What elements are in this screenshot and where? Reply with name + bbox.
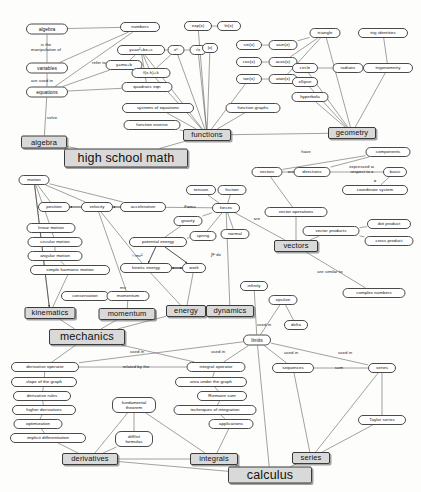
concept-node-derivative-rules[interactable]: derivative rules (13, 391, 71, 401)
concept-node-directions[interactable]: directions (294, 167, 331, 177)
edge-algebra-top-to-numbers (68, 27, 120, 28)
concept-node-derivative-operator[interactable]: derivative operator (11, 362, 79, 372)
edge-label-are-similar-to: are similar to (317, 270, 342, 275)
concept-node-optimization[interactable]: optimization (14, 419, 63, 429)
concept-node-spring[interactable]: spring (190, 231, 217, 241)
concept-node-simple-harmonic-motion[interactable]: simple harmonic motion (30, 265, 110, 275)
edge-forces-to-normal (228, 213, 234, 229)
concept-node-momentum-small[interactable]: momentum (107, 291, 150, 301)
concept-node-ellipse[interactable]: ellipse (292, 77, 318, 87)
concept-node-hyperbola[interactable]: hyperbola (292, 92, 329, 102)
concept-node-algebra-top[interactable]: algebra (26, 24, 68, 35)
concept-node-variables[interactable]: variables (26, 63, 68, 74)
concept-node-series-major[interactable]: series (292, 452, 330, 464)
concept-node-position[interactable]: position (38, 202, 70, 212)
concept-node-algebra-major[interactable]: algebra (21, 136, 67, 149)
edge-motion-to-velocity (46, 185, 86, 202)
concept-node-quad-formula[interactable]: y=ax²+bx+c (117, 45, 165, 55)
concept-node-fxhk[interactable]: f(x-h)+k (132, 68, 171, 78)
concept-node-kinematics[interactable]: kinematics (25, 307, 76, 319)
concept-node-asin-x[interactable]: asin(x) (269, 40, 298, 50)
concept-node-triangle[interactable]: triangle (310, 28, 341, 38)
concept-node-energy-major[interactable]: energy (166, 305, 206, 317)
concept-node-functions[interactable]: functions (183, 129, 231, 141)
concept-node-velocity[interactable]: velocity (81, 202, 113, 212)
concept-node-fundamental-theorem[interactable]: fundamental theorem (112, 397, 156, 413)
concept-node-work[interactable]: work (182, 263, 206, 273)
concept-node-ln-x[interactable]: ln(x) (217, 21, 241, 31)
concept-node-slope-of-the-graph[interactable]: slope of the graph (11, 377, 77, 387)
concept-node-mechanics[interactable]: mechanics (49, 329, 125, 345)
concept-node-diff-int-formulas[interactable]: diff/int formulas (115, 431, 153, 447)
concept-node-motion[interactable]: motion (19, 175, 50, 185)
concept-node-derivatives-major[interactable]: derivatives (62, 453, 118, 465)
concept-node-taylor-series[interactable]: Taylor series (358, 415, 406, 425)
concept-node-tension[interactable]: tension (186, 185, 216, 195)
concept-node-acceleration[interactable]: acceleration (120, 202, 166, 212)
concept-node-high-school-math[interactable]: high school math (64, 149, 188, 168)
concept-node-radians[interactable]: radians (333, 63, 364, 73)
concept-node-cross-product[interactable]: cross product (365, 236, 414, 246)
concept-node-vectors-major[interactable]: vectors (274, 240, 318, 252)
concept-node-applications[interactable]: applications (209, 419, 254, 429)
concept-node-series-small[interactable]: series (368, 363, 396, 373)
concept-node-exp-x[interactable]: exp(x) (184, 21, 212, 31)
edge-potential-energy-to-kinetic-energy (148, 247, 155, 263)
edge-vectors-small-to-vector-operations (271, 177, 293, 207)
concept-node-equations[interactable]: equations (26, 87, 68, 98)
concept-node-cos-x[interactable]: cos(x) (236, 57, 262, 67)
edge-label-used-in-seq: used in (284, 351, 298, 356)
concept-node-complex-numbers[interactable]: complex numbers (343, 288, 406, 298)
concept-node-vector-products[interactable]: vector products (303, 226, 360, 236)
concept-node-delta[interactable]: delta (284, 320, 308, 330)
concept-node-components[interactable]: components (366, 147, 411, 157)
concept-node-integrals-major[interactable]: integrals (190, 453, 238, 465)
concept-node-numbers[interactable]: numbers (120, 22, 160, 32)
concept-node-conservation[interactable]: conservation (61, 291, 109, 301)
concept-node-integral-operator[interactable]: integral operator (187, 362, 246, 372)
concept-node-circular-motion[interactable]: circular motion (28, 237, 83, 247)
concept-node-friction[interactable]: friction (218, 185, 247, 195)
concept-node-sin-x[interactable]: sin(x) (236, 40, 262, 50)
concept-node-riemann-sum[interactable]: Riemann sum (197, 391, 247, 401)
concept-node-techniques-of-integration[interactable]: techniques of integration (174, 405, 257, 415)
concept-node-calculus[interactable]: calculus (228, 467, 312, 484)
edge-work-to-energy-major (187, 273, 193, 305)
concept-node-kinetic-energy[interactable]: kinetic energy (120, 263, 172, 273)
concept-node-momentum-major[interactable]: momentum (99, 308, 156, 320)
concept-node-angular-motion[interactable]: angular motion (28, 251, 83, 261)
concept-node-implicit-differentiation[interactable]: implicit differentiation (10, 433, 86, 443)
concept-node-x-n[interactable]: xⁿ (168, 45, 185, 55)
concept-node-abs-x[interactable]: |x| (202, 43, 218, 53)
concept-node-sequences[interactable]: sequences (272, 363, 314, 373)
concept-node-coordinate-system[interactable]: coordinate system (342, 185, 408, 195)
edge-equations-to-ymxb (63, 70, 110, 87)
concept-node-forces[interactable]: forces (212, 203, 240, 213)
concept-node-systems-of-equations[interactable]: systems of equations (122, 103, 194, 113)
concept-node-normal[interactable]: normal (221, 229, 250, 239)
concept-node-geometry[interactable]: geometry (328, 127, 376, 139)
concept-node-quadratic-eqn[interactable]: quadratic eqn (122, 82, 173, 92)
concept-node-function-graphs[interactable]: function graphs (226, 103, 281, 113)
concept-node-gravity[interactable]: gravity (174, 216, 203, 226)
concept-node-vector-operations[interactable]: vector operations (265, 207, 328, 217)
concept-node-vectors-small[interactable]: vectors (252, 167, 283, 177)
concept-node-tan-x[interactable]: tan(x) (236, 74, 262, 84)
edge-label-int-f-dx: ∫F·dx (211, 253, 221, 258)
concept-node-basis[interactable]: basis (383, 167, 407, 177)
concept-node-area-under-the-graph[interactable]: area under the graph (175, 377, 247, 387)
concept-node-circle[interactable]: circle (292, 63, 318, 73)
concept-node-dynamics-major[interactable]: dynamics (206, 305, 254, 317)
edge-trigonometry-to-geometry (355, 73, 385, 127)
concept-node-trig-identities[interactable]: trig identities (358, 28, 408, 38)
concept-node-higher-derivatives[interactable]: higher derivatives (12, 405, 76, 415)
concept-node-linear-motion[interactable]: linear motion (27, 223, 76, 233)
concept-node-infinity[interactable]: infinity (240, 281, 268, 291)
concept-node-limits[interactable]: limits (243, 335, 271, 346)
concept-node-dot-product[interactable]: dot product (367, 219, 411, 229)
concept-node-epsilon[interactable]: epsilon (269, 295, 298, 305)
concept-node-function-inverse[interactable]: function inverse (124, 120, 181, 130)
concept-node-potential-energy[interactable]: potential energy (129, 237, 187, 247)
edge-label-are-used-in: are used in (31, 79, 53, 84)
concept-node-trigonometry[interactable]: trigonometry (363, 63, 413, 73)
